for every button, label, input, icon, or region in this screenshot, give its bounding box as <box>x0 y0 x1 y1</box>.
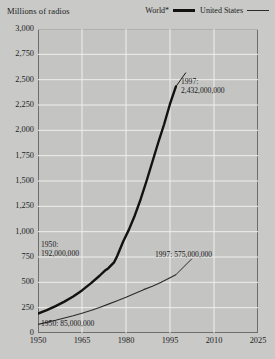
y-tick-1250: 1,250 <box>0 202 34 210</box>
annotation-world-1997-line1: 1997: <box>181 77 225 86</box>
legend-label-united-states: United States <box>200 6 243 15</box>
annotation-world-1997-line2: 2,432,000,000 <box>181 86 225 95</box>
chart-header: Millions of radios World* United States <box>0 0 275 22</box>
y-tick-750: 750 <box>0 253 34 261</box>
annotation-leader-lines <box>176 73 192 275</box>
y-tick-1750: 1,750 <box>0 152 34 160</box>
annotation-world-1950: 1950: 192,000,000 <box>41 240 79 259</box>
x-tick-2010: 2010 <box>194 337 234 345</box>
annotation-us-1950: 1950: 85,000,000 <box>41 319 94 328</box>
annotation-us-1997: 1997: 575,000,000 <box>155 250 212 259</box>
y-tick-250: 250 <box>0 304 34 312</box>
annotation-world-1950-line1: 1950: <box>41 240 79 249</box>
x-tick-1995: 1995 <box>150 337 190 345</box>
legend-swatch-united-states-icon <box>247 10 269 11</box>
annotation-world-1950-line2: 192,000,000 <box>41 249 79 258</box>
plot-svg <box>38 29 258 333</box>
series-layer <box>38 87 176 325</box>
x-tick-1965: 1965 <box>62 337 102 345</box>
y-tick-1500: 1,500 <box>0 177 34 185</box>
legend-label-world: World* <box>145 6 169 15</box>
y-tick-2000: 2,000 <box>0 126 34 134</box>
y-axis-title: Millions of radios <box>7 6 70 16</box>
annotation-world-1997: 1997: 2,432,000,000 <box>181 77 225 96</box>
y-tick-500: 500 <box>0 278 34 286</box>
x-tick-2025: 2025 <box>238 337 275 345</box>
plot-area <box>38 29 258 333</box>
chart-legend: World* United States <box>145 6 269 15</box>
y-tick-1000: 1,000 <box>0 228 34 236</box>
y-tick-2500: 2,500 <box>0 76 34 84</box>
y-tick-2250: 2,250 <box>0 101 34 109</box>
y-tick-3000: 3,000 <box>0 25 34 33</box>
radios-line-chart: Millions of radios World* United States … <box>0 0 275 359</box>
legend-swatch-world-icon <box>173 9 195 12</box>
x-tick-1980: 1980 <box>106 337 146 345</box>
y-tick-2750: 2,750 <box>0 50 34 58</box>
x-tick-1950: 1950 <box>18 337 58 345</box>
legend-item-united-states: United States <box>200 6 269 15</box>
legend-item-world: World* <box>145 6 195 15</box>
series-line-world <box>38 87 176 314</box>
